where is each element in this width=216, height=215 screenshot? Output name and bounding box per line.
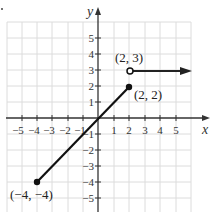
y-tick-label: 4 <box>89 48 95 60</box>
y-axis-arrow-icon <box>95 7 101 15</box>
y-tick-label: −5 <box>82 192 94 204</box>
y-tick-label: −3 <box>82 160 94 172</box>
x-tick-label: 1 <box>111 124 117 136</box>
x-tick-label: 5 <box>173 124 179 136</box>
point-label-2-2: (2, 2) <box>134 87 162 102</box>
x-axis-arrow-icon <box>202 115 210 121</box>
y-axis-label: y <box>85 4 94 19</box>
open-endpoint <box>127 68 133 74</box>
x-tick-label: −5 <box>12 124 24 136</box>
x-tick-label: 2 <box>126 124 132 136</box>
closed-endpoint-start <box>34 179 40 185</box>
x-tick-label: −2 <box>59 124 71 136</box>
y-tick-label: 3 <box>89 64 95 76</box>
x-tick-label: 3 <box>142 124 148 136</box>
x-axis-label: x <box>201 122 209 137</box>
y-tick-label: −2 <box>82 144 94 156</box>
x-tick-label: 4 <box>157 124 163 136</box>
y-tick-label: 1 <box>89 96 95 108</box>
y-tick-label: 2 <box>89 80 95 92</box>
y-tick-label: 5 <box>89 32 95 44</box>
y-tick-label: −4 <box>82 176 94 188</box>
ray-arrow-icon <box>180 67 192 75</box>
x-tick-label: −3 <box>43 124 55 136</box>
stray-mark <box>1 8 3 10</box>
point-label-2-3: (2, 3) <box>115 50 143 65</box>
closed-endpoint-end <box>126 84 132 90</box>
x-tick-label: −4 <box>28 124 40 136</box>
point-label-neg4-neg4: (−4, −4) <box>10 187 53 202</box>
graph: −5 −4 −3 −2 −1 1 2 3 4 5 5 4 3 2 1 −1 −2… <box>0 0 216 215</box>
